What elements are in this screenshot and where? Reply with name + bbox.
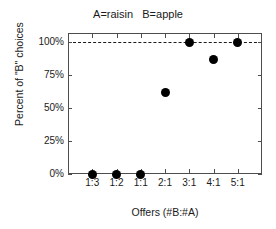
y-tick-mark-right — [258, 42, 262, 43]
y-tick-mark-right — [258, 75, 262, 76]
y-tick-mark — [68, 108, 72, 109]
y-tick-mark-right — [258, 174, 262, 175]
x-tick-mark-top — [141, 34, 142, 38]
plot-area — [68, 33, 262, 174]
y-tick-label: 50% — [20, 103, 64, 113]
y-tick-mark — [68, 174, 72, 175]
y-tick-mark — [68, 42, 72, 43]
x-tick-label: 5:1 — [221, 178, 255, 188]
data-point-marker — [185, 38, 194, 47]
chart-title: A=raisin B=apple — [0, 8, 276, 20]
x-tick-mark — [189, 169, 190, 173]
y-tick-label: 0% — [20, 169, 64, 179]
x-tick-mark-top — [117, 34, 118, 38]
y-tick-mark-right — [258, 141, 262, 142]
x-tick-mark-top — [92, 34, 93, 38]
chart-figure: A=raisin B=apple Percent of "B" choices … — [0, 0, 276, 229]
y-tick-mark — [68, 75, 72, 76]
data-point-marker — [136, 170, 145, 179]
data-point-marker — [88, 170, 97, 179]
y-tick-mark-right — [258, 108, 262, 109]
y-tick-mark — [68, 141, 72, 142]
y-tick-label: 100% — [20, 37, 64, 47]
x-tick-mark — [214, 169, 215, 173]
x-tick-mark-top — [214, 34, 215, 38]
x-tick-mark — [238, 169, 239, 173]
x-tick-mark — [165, 169, 166, 173]
y-tick-label: 75% — [20, 70, 64, 80]
data-point-marker — [233, 38, 242, 47]
data-point-marker — [112, 170, 121, 179]
data-point-marker — [161, 88, 170, 97]
data-point-marker — [209, 55, 218, 64]
y-tick-label: 25% — [20, 136, 64, 146]
x-tick-mark-top — [165, 34, 166, 38]
x-axis-title: Offers (#B:#A) — [68, 206, 262, 218]
